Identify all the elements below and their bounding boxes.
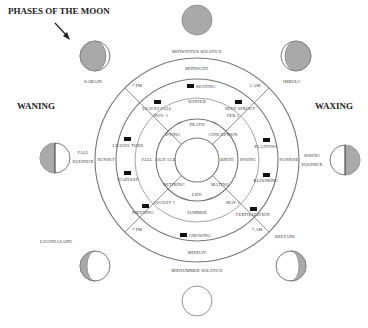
diagram-title: PHASES OF THE MOON — [8, 6, 110, 16]
waning-label: WANING — [17, 101, 55, 111]
sunset-label: SUNSET — [97, 157, 115, 162]
7pm-label-bottom: 7 PM — [132, 227, 142, 232]
harvest-label: HARVEST — [118, 177, 139, 182]
waxing-crescent-moon-icon — [281, 41, 311, 71]
waxing-label: WAXING — [315, 101, 353, 111]
spring-equinox-label-line2: EQUINOX — [302, 162, 324, 167]
may-1-label: MAY 1 — [226, 200, 240, 205]
imbolc-label: IMBOLC — [283, 79, 301, 84]
feb-1-label: FEB 1 — [227, 113, 239, 118]
fall-equinox-label-line2: EQUINOX — [73, 159, 95, 164]
7pm-label-top: 7 PM — [132, 83, 142, 88]
growing-label: GROWING — [189, 233, 211, 238]
waning-gibbous-moon-icon — [80, 251, 110, 281]
summer-label: SUMMER — [187, 210, 207, 215]
death-label: DEATH — [189, 122, 204, 127]
full-moon-icon — [182, 286, 212, 316]
fall-equinox-label-line1: FALL — [77, 150, 88, 155]
fertilization-label: FERTILIZATION — [236, 212, 270, 217]
seed-sprout-label: SEED SPROUT — [225, 106, 256, 111]
life-label: LIFE — [192, 192, 202, 197]
lughnasadh-label: LUGHNASADH — [40, 239, 72, 244]
winter-label: WINTER — [188, 99, 206, 104]
midsummer-solstice-label: MIDSUMMER SOLSTICE — [171, 268, 223, 273]
midday-label: MIDDAY — [188, 250, 206, 255]
spring-equinox-label-line1: SPRING — [304, 153, 320, 158]
conception-label: CONCEPTION — [208, 132, 237, 137]
new-moon-icon — [182, 5, 212, 35]
planting-label: PLANTING — [254, 144, 277, 149]
first-quarter-moon-icon — [330, 145, 360, 175]
beltane-label: BELTANE — [275, 234, 295, 239]
arrow-icon — [55, 23, 70, 40]
ripening-label: RIPENING — [132, 210, 154, 215]
waxing-gibbous-moon-icon — [276, 251, 306, 281]
resting-label: RESTING — [196, 84, 216, 89]
leaves-fall-label: LEAVES FALL — [142, 106, 172, 111]
old-age-label: OLD AGE — [156, 157, 176, 162]
retiring-label: RETIRING — [163, 182, 185, 187]
august-1-label: AUGUST 1 — [153, 200, 175, 205]
birth-label: BIRTH — [220, 157, 234, 162]
blooming-label: BLOOMING — [254, 178, 279, 183]
dying-label: DYING — [166, 132, 181, 137]
leaves-turn-label: LEAVES TURN — [113, 143, 144, 148]
2am-label: 2 AM — [250, 83, 261, 88]
midnight-label: MIDNIGHT — [185, 66, 208, 71]
waning-crescent-moon-icon — [80, 41, 110, 71]
fall-label: FALL — [141, 157, 152, 162]
7am-label: 7 AM — [252, 227, 263, 232]
last-quarter-moon-icon — [40, 143, 70, 173]
midwinter-solstice-label: MIDWINTER SOLSTICE — [172, 49, 222, 54]
spring-label: SPRING — [240, 157, 256, 162]
moon-phases-diagram: PHASES OF THE MOON WANING WAXING — [0, 0, 368, 328]
samain-label: SAMAIN — [84, 79, 102, 84]
nov-1-label: NOV. 1 — [154, 113, 168, 118]
sunrise-label: SUNRISE — [279, 157, 298, 162]
mating-label: MATING — [211, 182, 229, 187]
